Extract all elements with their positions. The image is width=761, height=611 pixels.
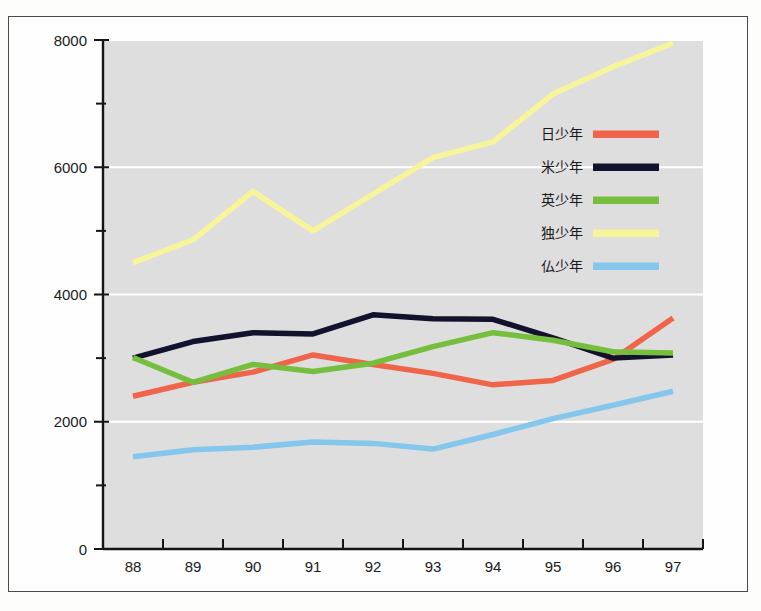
x-tick-label: 94 (485, 558, 502, 575)
legend-label-4: 仏少年 (541, 258, 583, 274)
x-tick-label: 88 (125, 558, 142, 575)
y-tick-label: 0 (79, 541, 87, 558)
legend-label-1: 米少年 (541, 159, 583, 175)
line-chart: 02000400060008000 88899091929394959697 日… (0, 0, 761, 611)
x-tick-label: 89 (185, 558, 202, 575)
x-axis-tick-labels: 88899091929394959697 (125, 558, 682, 575)
legend-label-0: 日少年 (541, 126, 583, 142)
legend-swatch-1 (593, 164, 659, 172)
legend-swatch-3 (593, 230, 659, 238)
x-tick-label: 90 (245, 558, 262, 575)
legend-label-3: 独少年 (541, 225, 583, 241)
x-tick-label: 93 (425, 558, 442, 575)
x-tick-label: 91 (305, 558, 322, 575)
x-tick-label: 95 (545, 558, 562, 575)
legend-swatch-4 (593, 263, 659, 271)
x-tick-label: 96 (605, 558, 622, 575)
legend-label-2: 英少年 (541, 192, 583, 208)
y-tick-label: 2000 (54, 413, 87, 430)
y-axis-tick-labels: 02000400060008000 (54, 32, 87, 558)
y-tick-label: 4000 (54, 286, 87, 303)
legend-swatch-2 (593, 197, 659, 205)
legend-swatch-0 (593, 131, 659, 139)
x-tick-label: 97 (665, 558, 682, 575)
x-tick-label: 92 (365, 558, 382, 575)
y-tick-label: 8000 (54, 32, 87, 49)
y-tick-label: 6000 (54, 159, 87, 176)
chart-figure: 02000400060008000 88899091929394959697 日… (0, 0, 761, 611)
